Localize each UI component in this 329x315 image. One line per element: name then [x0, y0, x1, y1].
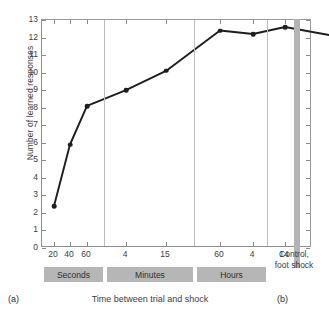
x-tick-mark: [166, 242, 167, 246]
y-axis-tick-labels: 131211109876543210: [22, 14, 38, 252]
y-tick-label: 12: [29, 33, 38, 41]
x-tick-mark-top: [54, 20, 55, 24]
y-tick-mark: [42, 108, 46, 109]
panel-b-caption: (b): [277, 294, 288, 304]
data-point-marker: [218, 28, 223, 33]
y-tick-label: 3: [33, 190, 38, 198]
panel-separator-bar: [294, 19, 300, 268]
y-tick-mark: [42, 73, 46, 74]
x-tick-mark-top: [253, 20, 254, 24]
y-tick-mark-right: [306, 143, 310, 144]
y-tick-label: 2: [33, 208, 38, 216]
x-axis-title: Time between trial and shock: [55, 294, 245, 304]
category-band-hours: Hours: [197, 267, 266, 282]
control-label-line2: foot shock: [262, 260, 326, 271]
panel-a-caption: (a): [8, 294, 19, 304]
category-band-minutes: Minutes: [107, 267, 193, 282]
y-tick-label: 9: [33, 85, 38, 93]
x-tick-label: 4: [250, 249, 255, 259]
y-tick-mark: [42, 178, 46, 179]
data-point-marker: [52, 204, 57, 209]
figure-container: Number of learned responses 131211109876…: [0, 0, 329, 315]
x-tick-label: 60: [81, 249, 90, 259]
y-tick-mark-right: [306, 73, 310, 74]
y-tick-mark-right: [306, 230, 310, 231]
group-separator-line: [267, 20, 268, 246]
data-point-marker: [85, 104, 90, 109]
series-line: [42, 20, 312, 248]
x-tick-mark-top: [166, 20, 167, 24]
x-tick-label: 4: [123, 249, 128, 259]
y-tick-label: 0: [33, 243, 38, 251]
x-tick-mark: [126, 242, 127, 246]
y-tick-mark: [42, 55, 46, 56]
x-tick-mark: [220, 242, 221, 246]
y-tick-label: 6: [33, 138, 38, 146]
y-tick-mark-right: [306, 195, 310, 196]
x-tick-mark: [253, 242, 254, 246]
x-tick-mark-top: [87, 20, 88, 24]
y-tick-mark-right: [306, 213, 310, 214]
data-series-layer: [42, 20, 310, 246]
y-tick-mark: [42, 195, 46, 196]
x-tick-label: 20: [48, 249, 57, 259]
data-point-marker: [124, 88, 129, 93]
control-group-label: Control, foot shock: [262, 249, 326, 270]
x-tick-mark-top: [70, 20, 71, 24]
y-tick-mark: [42, 38, 46, 39]
y-tick-label: 8: [33, 103, 38, 111]
y-tick-mark: [42, 160, 46, 161]
y-tick-label: 4: [33, 173, 38, 181]
data-point-marker: [164, 69, 169, 74]
x-tick-mark-top: [220, 20, 221, 24]
y-tick-mark-right: [306, 160, 310, 161]
x-tick-mark: [285, 242, 286, 246]
y-tick-mark: [42, 20, 46, 21]
y-tick-label: 10: [29, 68, 38, 76]
y-tick-label: 1: [33, 225, 38, 233]
x-tick-mark: [87, 242, 88, 246]
y-tick-mark-right: [306, 55, 310, 56]
group-separator-line: [104, 20, 105, 246]
x-tick-mark: [54, 242, 55, 246]
y-tick-mark-right: [306, 20, 310, 21]
y-tick-mark: [42, 90, 46, 91]
y-tick-mark-right: [306, 90, 310, 91]
x-tick-mark-top: [285, 20, 286, 24]
y-tick-label: 5: [33, 155, 38, 163]
control-label-line1: Control,: [262, 249, 326, 260]
y-tick-mark-right: [306, 38, 310, 39]
y-tick-mark: [42, 125, 46, 126]
y-tick-mark: [42, 230, 46, 231]
data-point-marker: [283, 25, 288, 30]
y-tick-label: 7: [33, 120, 38, 128]
y-tick-mark: [42, 143, 46, 144]
category-band-seconds: Seconds: [44, 267, 103, 282]
plot-area: [41, 19, 311, 247]
x-tick-label: 60: [214, 249, 223, 259]
data-point-marker: [68, 142, 73, 147]
x-tick-mark: [70, 242, 71, 246]
x-tick-label: 40: [64, 249, 73, 259]
y-tick-label: 13: [29, 15, 38, 23]
y-tick-mark: [42, 213, 46, 214]
y-tick-mark-right: [306, 108, 310, 109]
y-tick-mark-right: [306, 125, 310, 126]
data-point-marker: [251, 32, 256, 37]
x-tick-mark-top: [126, 20, 127, 24]
x-tick-label: 15: [160, 249, 169, 259]
group-separator-line: [194, 20, 195, 246]
y-tick-label: 11: [29, 50, 38, 58]
y-tick-mark-right: [306, 178, 310, 179]
